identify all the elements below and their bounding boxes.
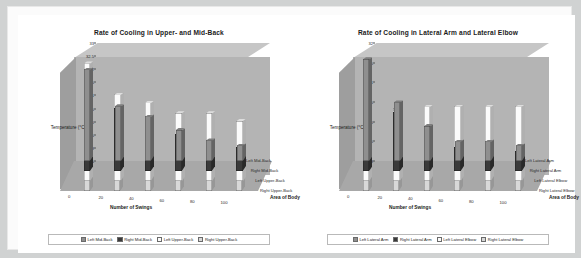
- bar-front-face: [363, 59, 369, 161]
- bar-column: [485, 141, 491, 161]
- chart-upper-mid-back: Rate of Cooling in Upper- and Mid-Back 2…: [20, 15, 298, 253]
- bar-front-face: [145, 116, 151, 161]
- charts-row: Rate of Cooling in Upper- and Mid-Back 2…: [18, 15, 575, 253]
- legend-item: Right Lateral Elbow: [481, 237, 523, 242]
- plot-area-left: 28.52929.53030.53131.53232.533 Temperatu…: [58, 57, 286, 219]
- bar-column: [394, 102, 400, 161]
- chart-title: Rate of Cooling in Lateral Arm and Later…: [299, 29, 577, 36]
- y-axis-tick-label: 32.5: [86, 54, 94, 59]
- x-axis-tick-label: 60: [160, 198, 165, 203]
- bar-side-face: [121, 104, 124, 161]
- bar-front-face: [394, 102, 400, 161]
- z-axis-tick-label: Right Lateral Elbow: [539, 188, 575, 193]
- y-axis-tick-mark: [94, 161, 96, 162]
- y-axis-tick-mark: [373, 43, 375, 44]
- legend-item: Left Upper-Back: [157, 237, 193, 242]
- y-axis-tick-mark: [94, 43, 96, 44]
- x-axis-tick-label: 40: [129, 196, 134, 201]
- y-axis-tick-mark: [94, 147, 96, 148]
- bar-side-face: [400, 100, 403, 161]
- bar-side-face: [369, 57, 372, 161]
- bar-front-face: [84, 69, 90, 161]
- y-axis-tick-mark: [94, 82, 96, 83]
- legend-left: Left Mid-BackRight Mid-BackLeft Upper-Ba…: [48, 234, 270, 245]
- y-axis-tick-mark: [373, 161, 375, 162]
- z-axis-title: Area of Body: [549, 195, 579, 200]
- y-axis-tick-mark: [94, 56, 96, 57]
- legend-swatch: [157, 237, 162, 242]
- legend-swatch: [117, 237, 122, 242]
- plot-ceiling: [74, 43, 270, 58]
- y-axis-tick-mark: [94, 69, 96, 70]
- legend-item: Right Upper-Back: [198, 237, 237, 242]
- legend-label: Left Mid-Back: [87, 237, 112, 242]
- bar-column: [516, 145, 522, 161]
- legend-swatch: [481, 237, 486, 242]
- y-axis-tick-mark: [94, 134, 96, 135]
- legend-item: Right Mid-Back: [117, 237, 151, 242]
- y-axis-tick-mark: [373, 62, 375, 63]
- legend-swatch: [81, 237, 86, 242]
- x-axis-tick-label: 60: [439, 198, 444, 203]
- bar-front-face: [424, 126, 430, 161]
- plot-area-right: 2929.53030.53131.532 Temperature (°C) 02…: [337, 57, 565, 219]
- chart-title: Rate of Cooling in Upper- and Mid-Back: [20, 29, 298, 36]
- x-axis-tick-label: 100: [221, 200, 228, 205]
- y-axis-tick-mark: [373, 102, 375, 103]
- y-axis-tick-mark: [94, 121, 96, 122]
- x-axis-tick-label: 0: [68, 194, 70, 199]
- z-axis-tick-label: Right Upper-Back: [260, 188, 292, 193]
- bar-front-face: [237, 145, 243, 161]
- x-axis-tick-label: 20: [99, 195, 104, 200]
- bar-front-face: [115, 106, 121, 161]
- legend-label: Left Lateral Arm: [359, 237, 388, 242]
- x-axis-tick-label: 20: [378, 195, 383, 200]
- legend-label: Right Upper-Back: [205, 237, 237, 242]
- bar-column: [176, 130, 182, 161]
- document-paper: Rate of Cooling in Upper- and Mid-Back 2…: [18, 15, 575, 253]
- bar-front-face: [485, 141, 491, 161]
- x-axis-title: Number of Swings: [389, 205, 431, 210]
- legend-swatch: [393, 237, 398, 242]
- y-axis-title: Temperature (°C): [24, 125, 86, 130]
- bar-front-face: [206, 140, 212, 161]
- y-axis-title: Temperature (°C): [303, 125, 365, 130]
- legend-label: Left Upper-Back: [164, 237, 194, 242]
- bar-side-face: [182, 128, 185, 161]
- chart-lateral-arm-elbow: Rate of Cooling in Lateral Arm and Later…: [299, 15, 577, 253]
- y-axis-tick-mark: [94, 108, 96, 109]
- y-axis-tick-mark: [94, 95, 96, 96]
- page-inner: Rate of Cooling in Upper- and Mid-Back 2…: [7, 6, 572, 250]
- bar-column: [84, 69, 90, 161]
- x-axis-tick-label: 40: [408, 196, 413, 201]
- x-axis-tick-label: 80: [469, 199, 474, 204]
- bar-front-face: [455, 141, 461, 161]
- y-axis-tick-mark: [373, 82, 375, 83]
- page-frame: Rate of Cooling in Upper- and Mid-Back 2…: [0, 0, 581, 258]
- x-axis-tick-label: 0: [347, 194, 349, 199]
- bar-column: [206, 140, 212, 161]
- bar-column: [237, 145, 243, 161]
- bar-column: [455, 141, 461, 161]
- x-axis-title: Number of Swings: [110, 205, 152, 210]
- legend-label: Left Lateral Elbow: [443, 237, 476, 242]
- legend-label: Right Lateral Arm: [400, 237, 432, 242]
- y-axis-tick-mark: [373, 121, 375, 122]
- legend-right: Left Lateral ArmRight Lateral ArmLeft La…: [327, 234, 549, 245]
- legend-item: Left Lateral Elbow: [437, 237, 476, 242]
- bar-side-face: [430, 124, 433, 161]
- legend-swatch: [198, 237, 203, 242]
- bar-front-face: [516, 145, 522, 161]
- bar-column: [424, 126, 430, 161]
- legend-label: Right Lateral Elbow: [488, 237, 524, 242]
- y-axis-tick-mark: [373, 141, 375, 142]
- x-axis-tick-label: 100: [500, 200, 507, 205]
- bar-front-face: [176, 130, 182, 161]
- bar-column: [363, 59, 369, 161]
- bar-column: [115, 106, 121, 161]
- bar-side-face: [151, 115, 154, 161]
- bar-column: [145, 116, 151, 161]
- bar-side-face: [90, 68, 93, 161]
- legend-item: Right Lateral Arm: [393, 237, 431, 242]
- legend-swatch: [437, 237, 442, 242]
